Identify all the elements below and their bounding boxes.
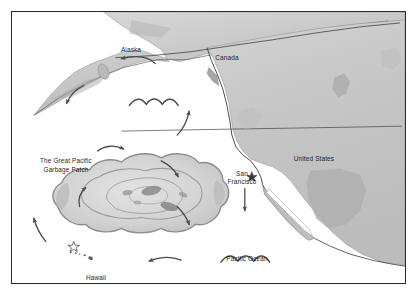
san-francisco-star-marker (247, 172, 257, 182)
map-frame-border: Alaska Canada United States San Francisc… (11, 11, 406, 284)
wave-symbol-pacific-ocean (221, 256, 270, 262)
wave-symbol-north (129, 99, 178, 105)
vancouver-island (207, 68, 219, 86)
hawaiian-islands-group (68, 241, 94, 260)
arrow-patch-north-eastward (98, 146, 124, 151)
great-pacific-garbage-patch-blob (53, 154, 229, 233)
patch-debris-core-4 (133, 201, 141, 205)
island-kauai (70, 251, 72, 253)
honolulu-star-marker (68, 241, 80, 252)
arrow-southwest-ascending (34, 218, 46, 241)
great-pacific-garbage-patch-map: Alaska Canada United States San Francisc… (0, 0, 417, 295)
arrow-east-ascending (177, 111, 189, 135)
arrow-south-westward (149, 258, 181, 262)
map-illustration-canvas (12, 12, 405, 283)
island-maui (83, 254, 86, 257)
island-oahu (75, 252, 77, 254)
island-molokai (79, 253, 81, 255)
island-hawaii-big (88, 256, 94, 261)
